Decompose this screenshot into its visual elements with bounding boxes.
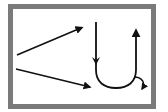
diagram-canvas — [0, 0, 168, 112]
arrows-diagram — [0, 0, 168, 112]
u-turn-arrow-icon — [96, 22, 136, 88]
lower-diagonal-arrow-icon — [16, 69, 90, 87]
small-curved-arrow-icon — [134, 77, 144, 89]
upper-diagonal-arrow-icon — [17, 28, 82, 56]
